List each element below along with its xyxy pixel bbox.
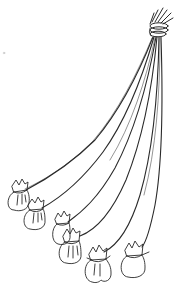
bundle-3	[53, 211, 70, 245]
top-knot	[149, 8, 173, 37]
strings	[25, 37, 162, 252]
bundles-on-strings-illustration	[0, 0, 185, 295]
bundle-4	[59, 228, 81, 264]
bundle-2	[24, 197, 45, 230]
stray-mark	[3, 52, 5, 54]
bundle-5	[85, 245, 111, 283]
bundle-6	[121, 241, 149, 278]
bundle-1	[8, 179, 29, 211]
